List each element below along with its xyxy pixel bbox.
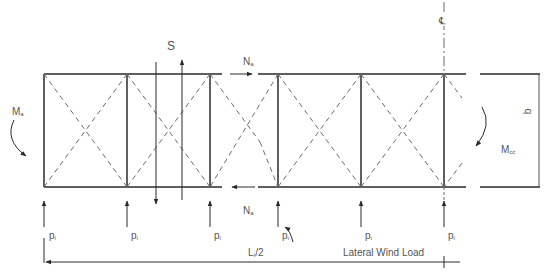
moment-left-label: Ma bbox=[12, 106, 24, 120]
reaction-label: pi bbox=[365, 230, 372, 244]
axial-top-label: Na bbox=[243, 56, 254, 70]
wind-load-label: Lateral Wind Load bbox=[343, 247, 424, 258]
moment-center-label: Mcc bbox=[501, 144, 515, 158]
depth-label: b bbox=[522, 109, 533, 115]
reaction-label: pi bbox=[49, 230, 56, 244]
shear-label: S bbox=[167, 41, 175, 52]
moment-center-arrow bbox=[476, 107, 486, 146]
truss-diagram bbox=[0, 0, 549, 273]
diagonal-bracing bbox=[44, 74, 462, 187]
shear-arrows bbox=[156, 60, 182, 204]
axial-bottom-label: Na bbox=[243, 205, 254, 219]
reaction-label: pi bbox=[282, 230, 289, 244]
centerline-label: ℄ bbox=[439, 15, 445, 26]
reaction-label: pi bbox=[131, 230, 138, 244]
reaction-label: pi bbox=[448, 230, 455, 244]
half-span-label: Lt/2 bbox=[248, 247, 264, 261]
reaction-label: pi bbox=[214, 230, 221, 244]
moment-left-arrow bbox=[11, 120, 26, 156]
